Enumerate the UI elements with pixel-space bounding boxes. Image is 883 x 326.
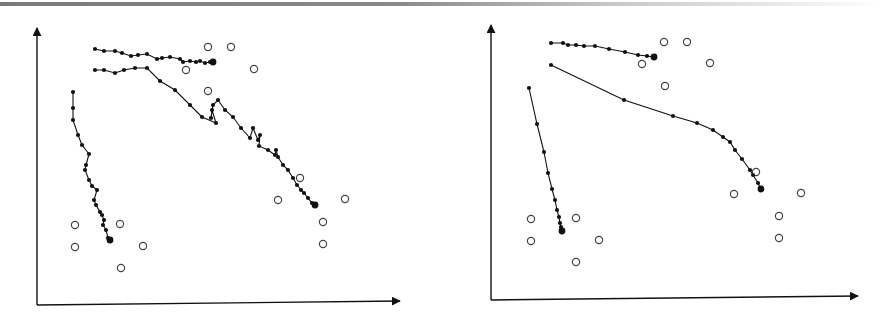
data-point — [295, 183, 299, 187]
open-circle-marker — [730, 190, 737, 197]
data-point — [312, 202, 319, 209]
data-point — [728, 140, 732, 144]
open-circle-marker — [775, 234, 782, 241]
data-point — [549, 41, 553, 45]
data-point — [83, 168, 87, 172]
open-circle-marker — [227, 43, 234, 50]
data-point — [178, 57, 182, 61]
open-circle-marker — [660, 38, 667, 45]
data-point — [574, 43, 578, 47]
data-point — [276, 155, 280, 159]
data-point — [168, 55, 172, 59]
data-point — [550, 187, 554, 191]
open-circle-marker — [319, 218, 326, 225]
open-circle-marker — [683, 38, 690, 45]
series-trajectory-top — [549, 41, 657, 60]
data-point — [306, 196, 310, 200]
data-point — [84, 163, 88, 167]
data-point — [188, 103, 192, 107]
data-point — [181, 60, 185, 64]
data-point — [695, 121, 699, 125]
left-panel — [37, 28, 400, 305]
right-panel — [491, 25, 858, 300]
data-point — [102, 68, 106, 72]
open-circle-marker — [250, 65, 257, 72]
data-point — [145, 66, 149, 70]
data-point — [546, 171, 550, 175]
data-point — [266, 148, 270, 152]
data-point — [113, 71, 117, 75]
data-point — [194, 60, 198, 64]
data-point — [231, 115, 235, 119]
data-point — [636, 53, 640, 57]
data-point — [558, 221, 562, 225]
open-circle-marker — [182, 66, 189, 73]
data-point — [188, 59, 192, 63]
data-point — [93, 47, 97, 51]
data-point — [751, 173, 755, 177]
data-point — [214, 121, 218, 125]
data-point — [557, 215, 561, 219]
data-point — [251, 126, 255, 130]
data-point — [607, 47, 611, 51]
data-point — [274, 148, 278, 152]
data-point — [200, 115, 204, 119]
data-point — [561, 41, 565, 45]
open-circle-marker — [139, 242, 146, 249]
data-point — [258, 133, 262, 137]
data-point — [623, 50, 627, 54]
open-circle-marker — [572, 214, 579, 221]
open-circle-marker — [204, 43, 211, 50]
data-point — [71, 118, 75, 122]
data-point — [566, 43, 570, 47]
data-point — [555, 208, 559, 212]
open-circle-marker — [527, 215, 534, 222]
data-point — [102, 218, 106, 222]
data-point — [257, 144, 261, 148]
data-point — [721, 135, 725, 139]
data-point — [122, 68, 126, 72]
data-point — [281, 163, 285, 167]
data-point — [286, 168, 290, 172]
open-circle-marker — [319, 240, 326, 247]
open-circle-marker — [595, 236, 602, 243]
data-point — [136, 53, 140, 57]
data-point — [748, 168, 752, 172]
open-circle-marker — [117, 264, 124, 271]
data-point — [553, 198, 557, 202]
open-circle-marker — [296, 174, 303, 181]
data-point — [71, 106, 75, 110]
data-point — [582, 44, 586, 48]
data-point — [527, 86, 531, 90]
data-point — [76, 133, 80, 137]
data-point — [758, 186, 765, 193]
data-point — [210, 59, 217, 66]
data-point — [120, 51, 124, 55]
data-point — [94, 203, 98, 207]
data-point — [549, 63, 553, 67]
series-trajectory-curve — [549, 63, 764, 193]
open-circle-marker — [706, 59, 713, 66]
data-point — [104, 228, 108, 232]
data-point — [71, 90, 75, 94]
data-point — [92, 198, 96, 202]
data-point — [155, 57, 159, 61]
open-circle-marker — [638, 60, 645, 67]
data-point — [256, 138, 260, 142]
data-point — [733, 148, 737, 152]
data-point — [113, 49, 117, 53]
data-point — [210, 108, 214, 112]
data-point — [80, 143, 84, 147]
data-point — [299, 188, 303, 192]
data-point — [559, 228, 566, 235]
data-point — [173, 88, 177, 92]
data-point — [145, 52, 149, 56]
data-point — [102, 49, 106, 53]
data-point — [95, 188, 99, 192]
series-trajectory-top — [93, 47, 217, 66]
data-point — [107, 237, 114, 244]
data-point — [622, 98, 626, 102]
open-circle-marker — [274, 196, 281, 203]
series-trajectory-left — [527, 86, 565, 235]
data-point — [542, 150, 546, 154]
